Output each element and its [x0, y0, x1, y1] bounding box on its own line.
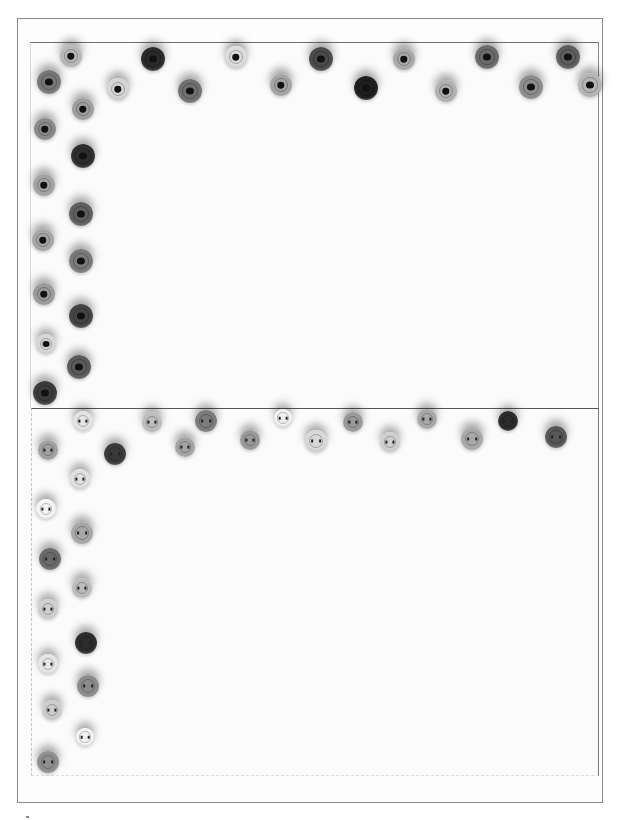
quilled-coil — [69, 304, 93, 328]
sewing-button — [175, 437, 195, 457]
quilled-coil — [36, 334, 56, 354]
sewing-button-hole — [245, 439, 254, 442]
quilled-coil — [107, 78, 129, 100]
sewing-button-hole — [81, 641, 91, 644]
sewing-button-hole — [348, 421, 357, 424]
sewing-button-hole — [47, 709, 56, 712]
quilled-coil — [178, 79, 202, 103]
sewing-button-hole — [422, 418, 431, 421]
sewing-button-hole — [78, 420, 87, 423]
sewing-button — [498, 411, 518, 431]
quilled-coil — [60, 45, 82, 67]
sewing-button — [142, 412, 162, 432]
sewing-button — [39, 548, 61, 570]
sewing-button — [380, 432, 400, 452]
quilled-coil — [519, 75, 543, 99]
sewing-button-hole — [551, 435, 561, 438]
quilled-coil — [270, 74, 292, 96]
quilled-coil-hole — [277, 82, 284, 89]
quilled-coil — [475, 45, 499, 69]
sewing-button — [71, 522, 93, 544]
sewing-button-hole — [43, 760, 53, 763]
sewing-button-hole — [81, 736, 90, 739]
sewing-button-hole — [77, 531, 87, 534]
sewing-button — [37, 751, 59, 773]
sewing-button — [305, 430, 327, 452]
scan-artifact — [26, 816, 29, 818]
quilled-coil-hole — [41, 126, 48, 133]
sewing-button-hole — [77, 587, 86, 590]
sewing-button — [75, 632, 97, 654]
quilled-coil — [225, 46, 247, 68]
quilled-coil-hole — [67, 53, 74, 60]
sewing-button — [274, 409, 292, 427]
quilled-coil-hole — [40, 291, 47, 298]
quilled-coil — [67, 355, 91, 379]
quilled-coil-hole — [79, 106, 86, 113]
sewing-button-hole — [45, 557, 55, 560]
sewing-button-hole — [385, 441, 394, 444]
sewing-button — [72, 578, 92, 598]
sewing-button-hole — [41, 508, 50, 511]
sewing-button-hole — [110, 452, 120, 455]
sewing-button — [38, 599, 58, 619]
quilled-coil — [71, 144, 95, 168]
quilled-coil — [556, 45, 580, 69]
quilled-coil-hole — [114, 86, 121, 93]
sewing-button-hole — [311, 439, 321, 442]
quilled-coil — [354, 76, 378, 100]
sewing-button — [38, 440, 58, 460]
quilled-coil-hole — [442, 88, 449, 95]
quilled-coil — [33, 283, 55, 305]
sewing-button — [76, 728, 94, 746]
quilled-coil — [435, 80, 457, 102]
sewing-button-hole — [83, 684, 93, 687]
sewing-button — [545, 426, 567, 448]
sewing-button — [240, 430, 260, 450]
sewing-button — [77, 675, 99, 697]
sewing-button-hole — [75, 478, 84, 481]
sewing-button-hole — [180, 446, 189, 449]
sewing-button-hole — [279, 417, 288, 420]
quilled-coil — [33, 174, 55, 196]
quilled-coil — [141, 47, 165, 71]
sewing-button — [36, 499, 56, 519]
quilled-coil-hole — [232, 54, 239, 61]
quilled-coil — [34, 118, 56, 140]
sewing-button — [104, 443, 126, 465]
quilled-coil — [33, 381, 57, 405]
sewing-button — [461, 428, 483, 450]
quilled-coil — [309, 47, 333, 71]
sewing-button-hole — [503, 420, 512, 423]
quilled-coil — [393, 48, 415, 70]
sewing-button — [343, 412, 363, 432]
sewing-button — [195, 410, 217, 432]
sewing-button — [38, 654, 58, 674]
quilled-coil-hole — [400, 56, 407, 63]
sewing-button-hole — [43, 449, 52, 452]
sewing-button — [70, 469, 90, 489]
sewing-button-hole — [43, 663, 52, 666]
sewing-button-hole — [147, 421, 156, 424]
quilled-coil-hole — [39, 237, 46, 244]
sewing-button-hole — [467, 437, 477, 440]
quilled-coil — [32, 229, 54, 251]
sewing-button-hole — [201, 419, 211, 422]
sewing-button-hole — [43, 608, 52, 611]
quilled-coil — [578, 73, 602, 97]
quilled-coil — [69, 249, 93, 273]
sewing-button — [417, 409, 437, 429]
quilled-coil-hole — [43, 341, 50, 347]
quilled-coil-hole — [40, 182, 47, 189]
sewing-button — [73, 411, 93, 431]
quilled-coil — [72, 98, 94, 120]
quilled-coil — [37, 70, 61, 94]
quilled-coil — [69, 202, 93, 226]
sewing-button — [42, 700, 62, 720]
